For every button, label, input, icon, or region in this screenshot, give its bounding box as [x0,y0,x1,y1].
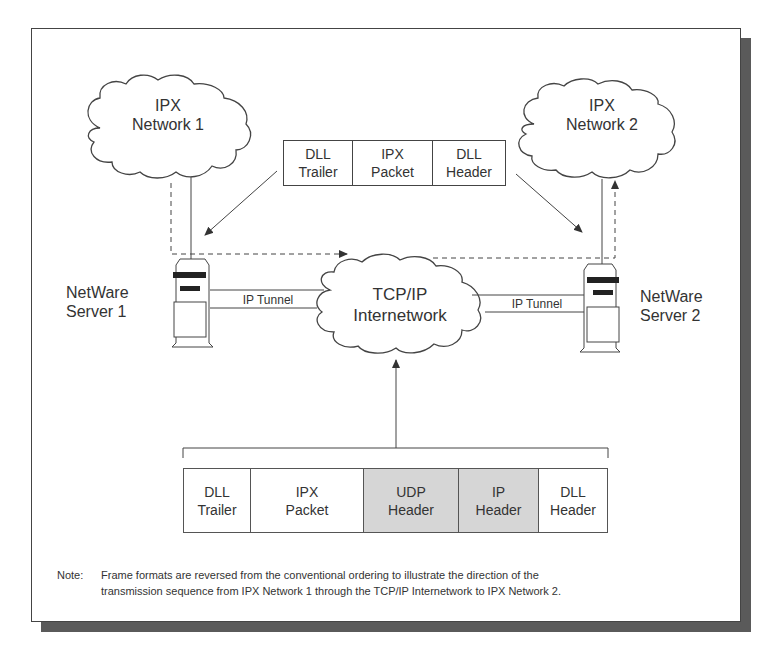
tunnel-frame-cell: IPX Packet [250,468,364,533]
cell-label: UDP Header [388,483,434,519]
label-line: Network 1 [118,115,218,134]
cell-label: DLL Header [550,483,596,519]
cell-label: DLL Trailer [197,483,236,519]
tunnel-frame-cell: DLL Trailer [183,468,251,533]
server-1-icon [172,259,213,347]
server-2-label: NetWare Server 2 [640,287,730,325]
cloud-ipx-network-1-label: IPX Network 1 [118,96,218,134]
label-line: IPX [552,96,652,115]
arrow-frame-to-server1 [205,171,277,235]
label-line: TCP/IP [340,284,460,305]
cloud-ipx-network-2-label: IPX Network 2 [552,96,652,134]
cell-label: DLL Trailer [298,145,337,181]
cell-label: DLL Header [446,145,492,181]
ipx-frame-cell: IPX Packet [352,140,433,186]
label-line: Internetwork [340,305,460,326]
tunnel-frame-cell-shaded: IP Header [458,468,539,533]
tunnel-frame-cell-shaded: UDP Header [363,468,459,533]
cell-label: IPX Packet [371,145,414,181]
dashed-path-left [171,183,347,254]
ip-tunnel-right-label: IP Tunnel [497,297,577,311]
server-1-label: NetWare Server 1 [66,283,156,321]
arrow-frame-to-server2 [516,174,582,232]
frame-bracket [183,448,608,458]
label-line: Network 2 [552,115,652,134]
ipx-frame-cell: DLL Header [432,140,506,186]
label-line: NetWare [66,283,156,302]
label-line: IPX [118,96,218,115]
ip-tunnel-left-label: IP Tunnel [228,293,308,307]
label-line: Server 1 [66,302,156,321]
note-line: Frame formats are reversed from the conv… [101,567,721,583]
server-2-icon [580,264,620,352]
cell-label: IPX Packet [286,483,329,519]
note-label: Note: [57,567,83,583]
cell-label: IP Header [476,483,522,519]
label-line: NetWare [640,287,730,306]
note-text: Frame formats are reversed from the conv… [101,567,721,599]
note-line: transmission sequence from IPX Network 1… [101,583,721,599]
dashed-path-right [433,181,615,258]
label-line: Server 2 [640,306,730,325]
ipx-frame-cell: DLL Trailer [283,140,353,186]
cloud-tcpip-label: TCP/IP Internetwork [340,284,460,326]
tunnel-frame-cell: DLL Header [538,468,608,533]
